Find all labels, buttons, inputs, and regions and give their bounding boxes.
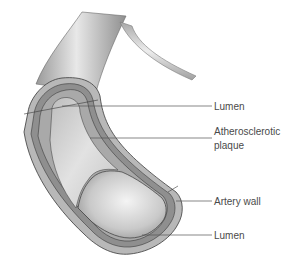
label-artery-wall: Artery wall xyxy=(214,196,261,207)
label-lumen-bottom: Lumen xyxy=(214,230,245,241)
label-lumen-top: Lumen xyxy=(214,101,245,112)
label-plaque-line1: Atherosclerotic xyxy=(214,126,280,137)
label-plaque: Atherosclerotic plaque xyxy=(214,126,280,151)
branch-vessel xyxy=(120,22,196,80)
label-plaque-line2: plaque xyxy=(214,140,280,151)
